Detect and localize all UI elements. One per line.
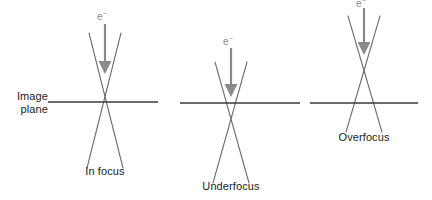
caption-underfocus: Underfocus — [181, 180, 281, 193]
electron-charge-underfocus: − — [229, 35, 233, 42]
panel-underfocus — [180, 48, 300, 183]
electron-label-overfocus: e− — [356, 0, 366, 9]
electron-charge-in-focus: − — [103, 10, 107, 17]
electron-beam-arrowhead-underfocus — [225, 84, 238, 97]
electron-beam-arrowhead-in-focus — [99, 61, 112, 74]
electron-beam-arrowhead-overfocus — [358, 42, 371, 55]
electron-label-underfocus: e− — [223, 35, 233, 47]
panel-overfocus — [310, 8, 418, 132]
panel-in-focus — [48, 24, 158, 168]
image-plane-label-line2: plane — [6, 103, 48, 116]
image-plane-label-line1: Image — [6, 90, 48, 103]
electron-charge-overfocus: − — [362, 0, 366, 4]
image-plane-label: Image plane — [6, 90, 48, 116]
electron-label-in-focus: e− — [97, 10, 107, 22]
caption-in-focus: In focus — [55, 165, 155, 178]
focus-diagram-figure: Image plane e− e− e− In focus Underfocus… — [0, 0, 432, 200]
caption-overfocus: Overfocus — [314, 131, 414, 144]
